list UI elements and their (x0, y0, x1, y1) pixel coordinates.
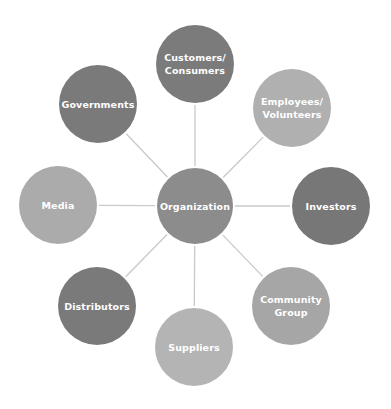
node-media: Media (19, 166, 97, 244)
node-employees: Employees/ Volunteers (253, 69, 331, 147)
node-customers-label: Customers/ Consumers (164, 51, 226, 77)
node-investors: Investors (292, 167, 370, 245)
node-investors-label: Investors (306, 200, 357, 213)
connector-distributors (126, 235, 167, 277)
node-employees-label: Employees/ Volunteers (261, 95, 323, 121)
connector-employees (223, 137, 263, 177)
node-governments: Governments (59, 65, 137, 143)
connector-community-group (223, 235, 263, 277)
connector-governments (126, 134, 167, 177)
node-community-group-label: Community Group (260, 293, 322, 319)
node-organization: Organization (157, 168, 233, 244)
node-organization-label: Organization (160, 200, 230, 213)
node-distributors-label: Distributors (64, 300, 129, 313)
node-customers: Customers/ Consumers (156, 25, 234, 103)
node-community-group: Community Group (252, 267, 330, 345)
stakeholder-diagram: Organization Customers/ Consumers Employ… (0, 0, 391, 409)
node-media-label: Media (42, 199, 75, 212)
node-suppliers-label: Suppliers (168, 341, 219, 354)
node-governments-label: Governments (62, 98, 135, 111)
node-suppliers: Suppliers (155, 308, 233, 386)
node-distributors: Distributors (58, 267, 136, 345)
